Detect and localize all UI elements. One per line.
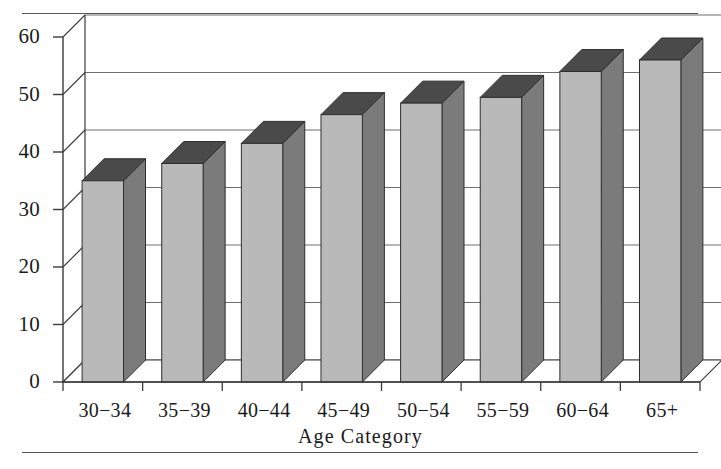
bar-front-face [321, 115, 362, 382]
axis-depth-connector [63, 15, 85, 37]
bar-5 [401, 81, 464, 382]
y-axis-tick-label: 0 [6, 371, 40, 392]
bar-front-face [162, 164, 203, 383]
bar-side-face [362, 93, 384, 382]
bar-3 [241, 121, 304, 382]
bar-side-face [601, 50, 623, 383]
bar-side-face [283, 121, 305, 382]
bar-front-face [560, 72, 601, 383]
y-axis-tick-label: 10 [6, 314, 40, 335]
x-axis-tick-labels: 30−3435−3940−4445−4950−5455−5960−6465+ [0, 398, 721, 426]
bar-6 [480, 75, 543, 382]
bar-side-face [124, 159, 146, 382]
bar-front-face [82, 181, 123, 382]
bar-front-face [241, 143, 282, 382]
bar-1 [82, 159, 145, 382]
y-axis-tick-label: 20 [6, 256, 40, 277]
bar-8 [639, 38, 702, 382]
y-axis-tick-label: 30 [6, 199, 40, 220]
bar-2 [162, 142, 225, 383]
bar-front-face [639, 60, 680, 382]
axis-depth-connector [63, 130, 85, 152]
y-axis-tick-label: 50 [6, 84, 40, 105]
x-axis-tick-label: 65+ [614, 398, 710, 422]
bar-side-face [203, 142, 225, 383]
x-axis-title: Age Category [0, 424, 721, 448]
bar-4 [321, 93, 384, 382]
bar-7 [560, 50, 623, 383]
y-axis-tick-label: 60 [6, 26, 40, 47]
bar-chart-figure: 0102030405060 30−3435−3940−4445−4950−545… [0, 0, 721, 469]
axis-depth-connector [63, 73, 85, 95]
bar-front-face [401, 103, 442, 382]
y-axis-tick-label: 40 [6, 141, 40, 162]
bar-side-face [681, 38, 703, 382]
bar-side-face [442, 81, 464, 382]
bar-front-face [480, 97, 521, 382]
bar-side-face [522, 75, 544, 382]
